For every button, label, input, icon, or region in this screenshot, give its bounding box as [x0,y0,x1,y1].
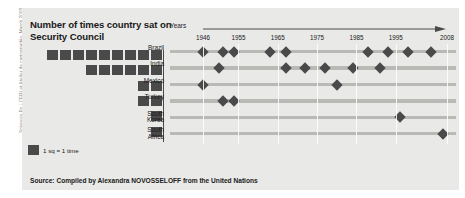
row-band [170,132,456,135]
year-gridline [356,44,357,144]
country-label: Brazil [148,45,164,52]
year-tick-label: 1995 [389,34,403,41]
page-title: Number of times country sat on Security … [30,19,182,43]
term-marker [363,46,374,57]
year-gridline [203,44,204,144]
row-band [170,83,456,86]
year-gridline [447,44,448,144]
source-note: Source: Compiled by Alexandra NOVOSSELOF… [30,177,258,184]
country-rows: BrazilIndiaMexicoTurkeySouth KoreaSouth … [170,44,456,144]
country-row: Turkey [170,93,456,109]
infographic-root: Sciences Po / CERI et Atelier de cartogr… [0,0,465,198]
year-tick-labels: 1946195519651975198519952008 [170,34,456,44]
country-row: South Africa [170,126,456,142]
square-unit [138,65,149,75]
year-tick-label: 1946 [196,34,210,41]
term-marker [264,46,275,57]
country-label: India [150,61,164,68]
term-marker [300,63,311,74]
year-tick-label: 1965 [271,34,285,41]
squares-chart [28,50,162,142]
term-marker [280,46,291,57]
term-marker [280,63,291,74]
legend-label: 1 sq = 1 time [43,147,79,154]
square-unit [99,50,110,60]
country-row: Brazil [170,44,456,60]
square-unit [99,65,110,75]
country-label: Mexico [144,78,164,85]
year-tick-label: 1985 [349,34,363,41]
years-arrow-icon [203,26,446,32]
square-unit [60,50,71,60]
square-unit [112,50,123,60]
row-band [170,99,456,102]
square-unit [125,50,136,60]
year-gridline [238,44,239,144]
square-unit [86,50,97,60]
country-label: South Africa [147,127,164,140]
year-gridline [396,44,397,144]
square-unit [125,65,136,75]
term-marker [319,63,330,74]
term-marker [426,46,437,57]
country-row: India [170,60,456,76]
country-label: Turkey [145,94,164,101]
square-unit [73,50,84,60]
infographic-panel: Number of times country sat on Security … [22,8,459,190]
term-marker [331,79,342,90]
square-unit [112,65,123,75]
years-axis-label: Years [170,22,186,29]
timeline-chart: Years 1946195519651975198519952008 Brazi… [170,22,456,144]
legend: 1 sq = 1 time [28,145,79,155]
year-gridline [317,44,318,144]
term-marker [217,46,228,57]
term-marker [374,63,385,74]
term-marker [382,46,393,57]
year-tick-label: 2008 [440,34,454,41]
square-unit [86,65,97,75]
country-row: South Korea [170,110,456,126]
year-tick-label: 1975 [310,34,324,41]
country-label: South Korea [147,111,164,124]
legend-swatch-icon [28,145,39,155]
squares-row [47,50,162,60]
term-marker [213,63,224,74]
country-row: Mexico [170,77,456,93]
row-band [170,116,456,119]
term-marker [217,95,228,106]
term-marker [402,46,413,57]
year-tick-label: 1955 [231,34,245,41]
year-gridline [278,44,279,144]
square-unit [47,50,58,60]
